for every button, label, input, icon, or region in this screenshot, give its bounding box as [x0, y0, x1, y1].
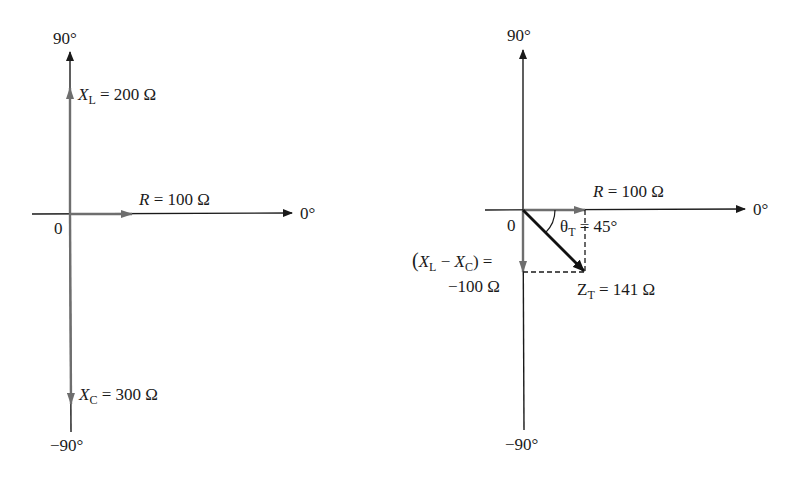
left-axis-90-label: 90° [53, 30, 77, 47]
net-reactance-label: (XL − XC) = [412, 250, 492, 270]
zt-label: ZT = 141 Ω [577, 281, 655, 298]
right-axis-neg90-label: −90° [505, 436, 538, 453]
phasor-diagrams [0, 0, 787, 479]
left-axis-neg90-label: −90° [50, 437, 83, 454]
xc-phasor [70, 214, 71, 404]
right-diagram [485, 50, 745, 430]
xc-label: XC = 300 Ω [79, 386, 158, 403]
r-label-right: R = 100 Ω [593, 183, 664, 200]
net-reactance-value: −100 Ω [448, 278, 500, 295]
xl-label: XL = 200 Ω [78, 86, 156, 103]
theta-label: θT = 45° [560, 218, 617, 235]
right-axis-0-label: 0° [753, 201, 768, 218]
theta-arc [546, 210, 555, 233]
left-origin-label: 0 [54, 220, 63, 237]
left-axis-0-label: 0° [300, 205, 315, 222]
r-label-left: R = 100 Ω [139, 191, 210, 208]
right-origin-label: 0 [507, 217, 516, 234]
left-diagram [32, 52, 292, 432]
right-axis-90-label: 90° [507, 27, 531, 44]
